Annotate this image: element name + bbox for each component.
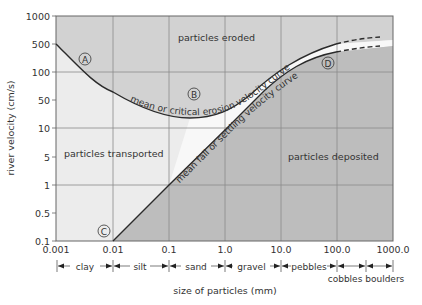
svg-text:sand: sand — [185, 262, 207, 272]
svg-text:silt: silt — [133, 262, 147, 272]
particle-class-brackets — [57, 260, 393, 272]
svg-text:A: A — [82, 55, 89, 65]
svg-text:0.1: 0.1 — [161, 244, 176, 255]
hjulstrom-chart: mean or critical erosion velocity curve … — [0, 0, 422, 305]
svg-text:0.01: 0.01 — [102, 244, 123, 255]
svg-text:gravel: gravel — [237, 262, 265, 272]
x-tick-labels: 0.001 0.01 0.1 1.0 10.0 100.0 1000.0 — [42, 244, 409, 255]
svg-text:0.001: 0.001 — [42, 244, 69, 255]
svg-text:1000: 1000 — [26, 11, 50, 22]
svg-text:10: 10 — [38, 123, 50, 134]
y-tick-labels: 1000 500 100 50 10 5 1 0.5 0.1 — [26, 11, 50, 247]
svg-text:10.0: 10.0 — [270, 244, 291, 255]
svg-text:D: D — [325, 59, 332, 69]
y-axis-title: river velocity (cm/s) — [5, 80, 16, 175]
svg-text:100: 100 — [32, 67, 50, 78]
x-axis-title: size of particles (mm) — [173, 285, 276, 296]
eroded-label: particles eroded — [178, 32, 255, 43]
svg-text:cobbles boulders: cobbles boulders — [328, 274, 405, 284]
svg-text:50: 50 — [38, 95, 50, 106]
transported-label: particles transported — [64, 148, 164, 159]
particle-class-labels: clay silt sand gravel pebbles cobbles bo… — [76, 262, 405, 285]
svg-text:C: C — [101, 227, 107, 237]
svg-text:100.0: 100.0 — [323, 244, 350, 255]
svg-text:0.5: 0.5 — [35, 208, 50, 219]
svg-text:1000.0: 1000.0 — [376, 244, 409, 255]
svg-text:5: 5 — [44, 152, 50, 163]
svg-text:500: 500 — [32, 39, 50, 50]
svg-text:1: 1 — [44, 180, 50, 191]
svg-text:B: B — [191, 90, 197, 100]
deposited-label: particles deposited — [288, 151, 379, 162]
svg-text:1.0: 1.0 — [217, 244, 232, 255]
svg-text:pebbles: pebbles — [291, 262, 327, 272]
svg-text:clay: clay — [76, 262, 95, 272]
y-axis — [52, 16, 56, 241]
